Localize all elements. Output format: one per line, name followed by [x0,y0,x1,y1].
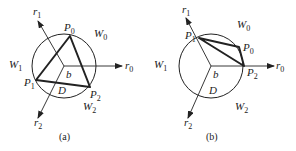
ray-label-r1: r1 [33,5,41,20]
region-label-w1: W1 [9,58,22,73]
diagram-canvas: P0 P1 P2 W0 W1 W2 r0 r1 r2 b D (a) P0 P1… [0,0,296,151]
ray-label-r1: r1 [182,3,190,18]
figure-a: P0 P1 P2 W0 W1 W2 r0 r1 r2 b D (a) [9,5,133,143]
region-label-w0: W0 [94,27,107,42]
region-label-w0: W0 [237,18,250,33]
caption-b: (b) [206,131,218,143]
ray-r2 [188,66,211,118]
center-label-b: b [213,68,219,80]
ray-label-r0: r0 [125,59,133,74]
disk-label-d: D [208,84,217,96]
region-label-w2: W2 [83,100,96,115]
figure-b: P0 P1 P2 W0 W1 W2 r0 r1 r2 b D (b) [154,3,284,143]
ray-label-r2: r2 [184,116,192,131]
disk-label-d: D [57,84,66,96]
triangle-p0p1p2 [36,36,90,87]
ray-label-r2: r2 [34,116,42,131]
triangle-p0p1p2 [199,38,244,66]
caption-a: (a) [59,131,70,143]
region-label-w1: W1 [154,58,167,73]
point-label-p0: P0 [242,41,254,56]
region-label-w2: W2 [235,100,248,115]
point-label-p2: P2 [246,66,258,81]
ray-label-r0: r0 [276,59,284,74]
point-label-p1: P1 [23,76,35,91]
center-label-b: b [66,68,72,80]
